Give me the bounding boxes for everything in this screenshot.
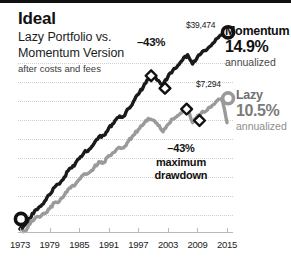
legend-lazy-name: Lazy xyxy=(236,88,287,102)
x-axis-tick xyxy=(50,228,51,233)
x-axis-tick xyxy=(138,228,139,233)
legend-momentum-note: annualized xyxy=(225,56,289,68)
annotation-drawdown-word-drawdown: drawdown xyxy=(138,169,224,183)
legend-momentum-percent: 14.9% xyxy=(225,38,289,56)
x-axis-tick xyxy=(20,228,21,233)
title-block: Ideal Lazy Portfolio vs. Momentum Versio… xyxy=(18,9,193,75)
callout-lazy-value: $7,294 xyxy=(196,79,221,89)
x-axis-tick xyxy=(79,228,80,233)
page-title: Ideal xyxy=(18,9,193,29)
chart-subtitle-line-1: Lazy Portfolio vs. xyxy=(18,30,193,45)
callout-momentum-value: $39,474 xyxy=(186,20,215,30)
chart-figure: Ideal Lazy Portfolio vs. Momentum Versio… xyxy=(0,0,291,262)
legend-momentum-name: Momentum xyxy=(225,24,289,38)
annotation-max-drawdown: –43% maximum drawdown xyxy=(138,142,224,183)
annotation-drawdown-momentum: –43% xyxy=(137,36,165,48)
legend-item-momentum: Momentum 14.9% annualized xyxy=(225,24,289,68)
annotation-drawdown-pct: –43% xyxy=(138,142,224,156)
chart-subtitle-line-2: Momentum Version xyxy=(18,46,193,61)
annotation-drawdown-word-maximum: maximum xyxy=(138,156,224,170)
x-axis-tick xyxy=(197,228,198,233)
x-axis-tick xyxy=(227,228,228,233)
x-axis-label: 2015 xyxy=(210,239,244,250)
legend-item-lazy: Lazy 10.5% annualized xyxy=(236,88,287,132)
legend-lazy-percent: 10.5% xyxy=(236,102,287,120)
legend-lazy-note: annualized xyxy=(236,120,287,132)
x-axis-tick xyxy=(109,228,110,233)
chart-footnote: after costs and fees xyxy=(18,63,193,75)
x-axis-tick xyxy=(168,228,169,233)
